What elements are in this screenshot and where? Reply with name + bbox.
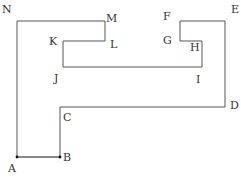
label-k: K [49, 35, 58, 48]
label-i: I [196, 73, 200, 86]
label-e: E [231, 3, 239, 16]
label-d: D [230, 99, 239, 112]
label-l: L [110, 38, 118, 51]
label-j: J [53, 72, 58, 85]
label-h: H [190, 41, 200, 54]
label-n: N [2, 3, 12, 16]
point-b-marker [59, 156, 62, 159]
label-b: B [63, 151, 71, 164]
label-f: F [163, 10, 171, 23]
rectilinear-path-diagram: A B C D E F G H I J K L M N [0, 0, 241, 177]
label-c: C [63, 111, 71, 124]
label-g: G [163, 34, 172, 47]
label-a: A [7, 162, 17, 175]
label-m: M [106, 12, 117, 25]
point-a-marker [16, 156, 19, 159]
